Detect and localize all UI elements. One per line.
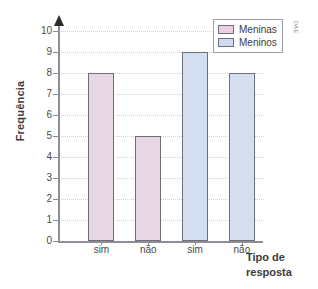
y-axis-tick-label: 8 <box>30 68 52 78</box>
y-axis-arrow-icon <box>54 15 64 26</box>
y-axis-tick-mark <box>53 115 58 116</box>
y-axis-tick-label: 2 <box>30 194 52 204</box>
x-axis-label-line2: resposta <box>246 265 316 280</box>
x-axis-tick-label: sim <box>173 244 217 255</box>
y-axis-tick-mark <box>53 220 58 221</box>
y-axis-tick-mark <box>53 157 58 158</box>
x-axis-tick-label: não <box>126 244 170 255</box>
legend-label-meninas: Meninas <box>239 24 277 35</box>
y-axis-tick-mark <box>53 94 58 95</box>
legend-swatch-meninos <box>218 38 234 47</box>
x-axis-tick-mark <box>148 241 149 245</box>
y-axis-tick-mark <box>53 241 58 242</box>
y-axis-tick-label: 5 <box>30 131 52 141</box>
bar-chart-figure: Frequência Meninas Meninos Tipo de respo… <box>0 0 318 289</box>
x-axis-line <box>58 241 263 243</box>
y-axis-tick-mark <box>53 178 58 179</box>
y-axis-tick-label: 0 <box>30 236 52 246</box>
y-axis-tick-label: 10 <box>30 26 52 36</box>
x-axis-tick-mark <box>195 241 196 245</box>
x-axis-tick-label: não <box>220 244 264 255</box>
y-axis-tick-mark <box>53 52 58 53</box>
legend-swatch-meninas <box>218 25 234 34</box>
bar <box>88 73 114 241</box>
y-axis-tick-mark <box>53 73 58 74</box>
y-axis-tick-label: 6 <box>30 110 52 120</box>
bar <box>229 73 255 241</box>
y-axis-tick-mark <box>53 199 58 200</box>
y-axis-tick-mark <box>53 31 58 32</box>
plot-area <box>58 31 264 241</box>
legend-item-meninas: Meninas <box>218 23 277 36</box>
y-axis-tick-label: 9 <box>30 47 52 57</box>
x-axis-tick-mark <box>242 241 243 245</box>
x-axis-tick-mark <box>101 241 102 245</box>
x-axis-tick-label: sim <box>79 244 123 255</box>
y-axis-tick-mark <box>53 136 58 137</box>
y-axis-line <box>58 24 60 242</box>
bar <box>135 136 161 241</box>
y-axis-tick-label: 1 <box>30 215 52 225</box>
y-axis-tick-label: 7 <box>30 89 52 99</box>
legend-item-meninos: Meninos <box>218 36 277 49</box>
legend-label-meninos: Meninos <box>239 37 277 48</box>
legend: Meninas Meninos <box>213 19 283 53</box>
y-axis-tick-label: 4 <box>30 152 52 162</box>
credit-watermark: DAE <box>293 21 299 34</box>
y-axis-tick-label: 3 <box>30 173 52 183</box>
bar <box>182 52 208 241</box>
y-axis-label: Frequência <box>14 61 26 161</box>
